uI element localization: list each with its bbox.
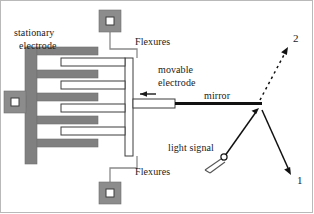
port-1-label: 1 [297,174,303,186]
mirror-label: mirror [204,90,230,102]
switched-beam-port-2 [260,47,288,100]
anchor-pad-bottom-inner [106,189,114,197]
flexures-top-label: Flexures [135,36,170,48]
stationary-finger-3 [37,93,98,101]
anchor-pad-left-inner [11,98,19,106]
stationary-finger-4 [37,116,98,124]
movable-electrode-spine [125,58,133,156]
stationary-finger-5 [37,139,98,147]
movable-finger-4 [61,127,125,135]
movable-electrode-label-line1: movable [158,63,196,76]
stationary-electrode-label-line2: electrode [14,39,57,52]
movable-electrode-label: movable electrode [158,63,196,89]
movable-finger-1 [61,58,125,66]
port-2-label: 2 [293,32,299,44]
flexure-top [110,32,137,58]
incident-beam [222,108,259,160]
light-signal-label: light signal [168,142,214,154]
optical-beams-group [222,47,291,175]
movable-finger-2 [61,81,125,89]
figure-canvas: stationary electrode Flexures Flexures m… [0,0,314,214]
flexures-bottom-label: Flexures [135,166,170,178]
stationary-electrode-label-line1: stationary [14,26,57,39]
anchor-pad-top-inner [106,17,114,25]
light-source-icon [205,154,227,173]
movable-electrode-shuttle [133,99,175,108]
movable-electrode-label-line2: electrode [158,76,196,89]
flexure-bottom [110,156,137,182]
stationary-finger-2 [37,70,98,78]
movable-finger-3 [61,104,125,112]
stationary-electrode-spine [25,47,37,164]
actuation-arrow [140,91,156,97]
stationary-electrode-label: stationary electrode [14,26,57,52]
reflected-beam-port-1 [262,110,291,175]
